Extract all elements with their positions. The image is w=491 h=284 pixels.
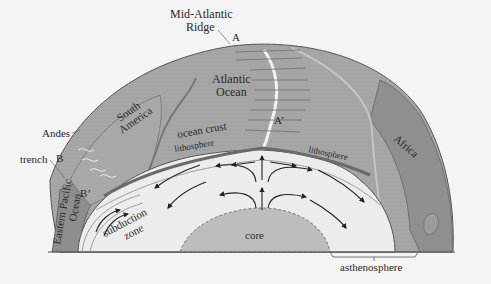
point-a-label: A <box>232 31 240 43</box>
point-a-prime-label: A’ <box>274 114 284 126</box>
ridge-leader-line <box>218 30 230 44</box>
mid-atlantic-ridge-label: Mid-Atlantic <box>170 7 233 21</box>
andes-label: Andes <box>42 127 70 139</box>
atlantic-ocean-label: Atlantic <box>212 72 251 86</box>
mid-atlantic-ridge-label-2: Ridge <box>186 20 215 34</box>
asthenosphere-bracket <box>330 252 418 261</box>
trench-label: trench <box>20 153 48 165</box>
earth-cross-section-diagram: Mid-Atlantic Ridge A A’ Atlantic Ocean S… <box>0 0 491 284</box>
core-label: core <box>245 229 264 241</box>
atlantic-ocean-label-2: Ocean <box>216 85 247 99</box>
asthenosphere-label: asthenosphere <box>340 261 402 273</box>
diagram-canvas: Mid-Atlantic Ridge A A’ Atlantic Ocean S… <box>0 0 491 284</box>
point-b-label: B <box>56 152 63 164</box>
